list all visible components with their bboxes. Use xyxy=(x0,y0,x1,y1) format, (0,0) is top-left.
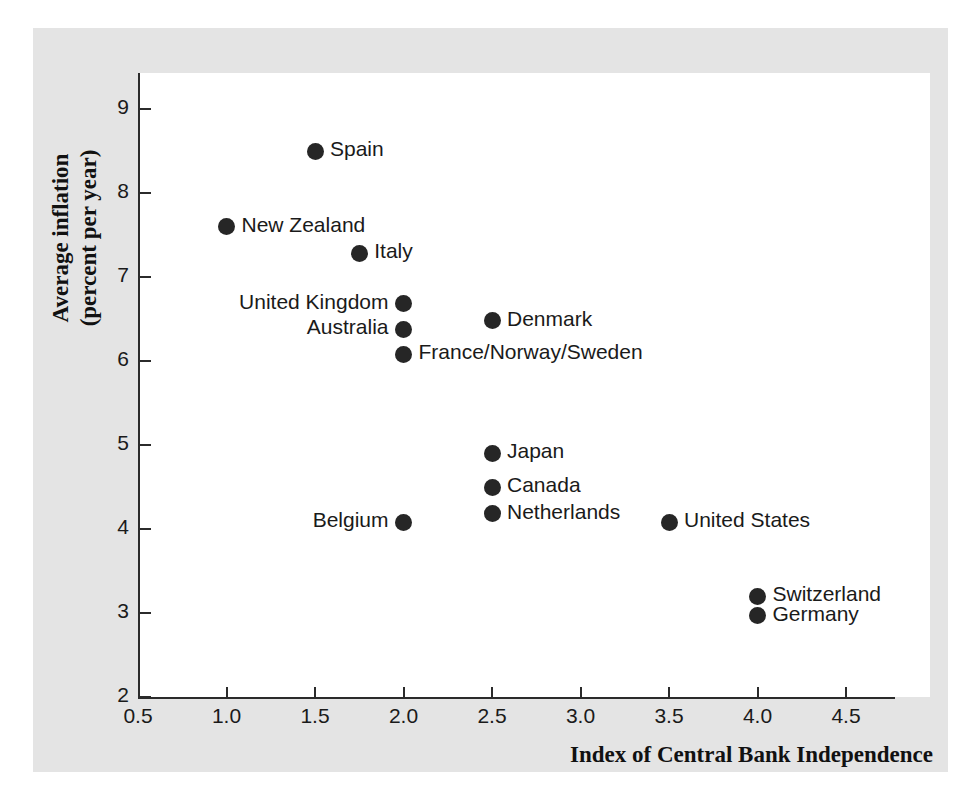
x-tick-mark xyxy=(580,687,582,698)
y-tick-mark xyxy=(140,276,151,278)
scatter-point[interactable] xyxy=(307,143,324,160)
x-tick-mark xyxy=(403,687,405,698)
x-axis-title: Index of Central Bank Independence xyxy=(413,742,933,768)
x-tick-label: 2.0 xyxy=(369,704,439,728)
figure-background: 23456789 0.51.01.52.02.53.03.54.04.5 Spa… xyxy=(33,28,948,772)
scatter-point[interactable] xyxy=(484,445,501,462)
scatter-point[interactable] xyxy=(749,588,766,605)
scatter-point-label: Australia xyxy=(307,315,389,339)
scatter-point[interactable] xyxy=(395,321,412,338)
scatter-point-label: Canada xyxy=(507,473,581,497)
x-tick-label: 2.5 xyxy=(457,704,527,728)
x-tick-label: 4.0 xyxy=(723,704,793,728)
scatter-point-label: New Zealand xyxy=(242,213,366,237)
scatter-point[interactable] xyxy=(484,312,501,329)
scatter-point[interactable] xyxy=(661,514,678,531)
scatter-point-label: Germany xyxy=(773,602,859,626)
x-tick-mark xyxy=(314,687,316,698)
scatter-point-label: Denmark xyxy=(507,307,592,331)
x-tick-mark xyxy=(757,687,759,698)
y-tick-mark xyxy=(140,360,151,362)
scatter-point[interactable] xyxy=(395,514,412,531)
x-axis-line xyxy=(138,697,895,699)
scatter-point[interactable] xyxy=(484,505,501,522)
x-tick-label: 3.5 xyxy=(634,704,704,728)
y-tick-mark xyxy=(140,612,151,614)
y-tick-label: 3 xyxy=(89,599,129,623)
scatter-point-label: Spain xyxy=(330,137,384,161)
scatter-point[interactable] xyxy=(749,607,766,624)
x-tick-mark xyxy=(845,687,847,698)
scatter-point-label: Italy xyxy=(374,239,413,263)
y-axis-title-line-2: (percent per year) xyxy=(75,28,103,448)
y-axis-line xyxy=(138,73,140,698)
y-tick-mark xyxy=(140,108,151,110)
x-tick-label: 1.0 xyxy=(192,704,262,728)
y-tick-mark xyxy=(140,528,151,530)
y-tick-label: 4 xyxy=(89,515,129,539)
x-tick-mark xyxy=(491,687,493,698)
scatter-point-label: United States xyxy=(684,508,810,532)
scatter-point-label: Japan xyxy=(507,439,564,463)
x-tick-label: 1.5 xyxy=(280,704,350,728)
y-axis-title: Average inflation (percent per year) xyxy=(47,28,103,448)
y-tick-mark xyxy=(140,444,151,446)
y-tick-mark xyxy=(140,696,151,698)
x-tick-mark xyxy=(668,687,670,698)
scatter-point-label: Belgium xyxy=(313,508,389,532)
scatter-point[interactable] xyxy=(218,218,235,235)
y-tick-mark xyxy=(140,192,151,194)
x-tick-label: 3.0 xyxy=(546,704,616,728)
scatter-point[interactable] xyxy=(484,479,501,496)
scatter-point-label: France/Norway/Sweden xyxy=(419,340,643,364)
x-tick-label: 0.5 xyxy=(103,704,173,728)
scatter-point-label: United Kingdom xyxy=(239,290,388,314)
y-axis-title-line-1: Average inflation xyxy=(47,28,75,448)
scatter-point-label: Netherlands xyxy=(507,500,620,524)
x-tick-mark xyxy=(226,687,228,698)
scatter-point[interactable] xyxy=(395,346,412,363)
x-tick-label: 4.5 xyxy=(811,704,881,728)
scatter-point[interactable] xyxy=(351,245,368,262)
